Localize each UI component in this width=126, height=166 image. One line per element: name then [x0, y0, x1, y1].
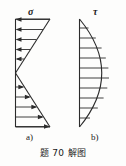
stress-distribution-figure: σ τ a) b) 题 70 解图: [0, 0, 126, 166]
panel-a-sigma-diagram: [16, 19, 51, 127]
arrowhead-left-icon: [16, 27, 22, 31]
arrowhead-left-icon: [16, 17, 22, 21]
sigma-symbol-label: σ: [28, 7, 33, 17]
stress-diagram-svg: [0, 0, 126, 166]
arrowhead-left-icon: [16, 57, 22, 61]
panel-a-upper-arrows: [17, 20, 50, 60]
panel-b-tau-diagram: [80, 19, 102, 127]
figure-caption: 题 70 解图: [0, 149, 126, 158]
panel-b-parabolic-curve: [80, 19, 102, 127]
panel-b-label: b): [91, 133, 99, 142]
figure-page: σ τ a) b) 题 70 解图: [0, 0, 126, 166]
panel-a-lower-hypotenuse: [16, 73, 51, 127]
panel-a-label: a): [26, 133, 33, 142]
arrowhead-left-icon: [16, 37, 22, 41]
arrowhead-left-icon: [16, 47, 22, 51]
panel-a-upper-hypotenuse: [16, 19, 51, 73]
panel-a-upper-arrowheads: [16, 17, 22, 61]
tau-symbol-label: τ: [93, 7, 97, 17]
